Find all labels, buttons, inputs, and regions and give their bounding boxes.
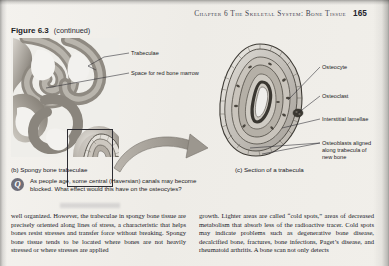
figure-number: Figure 6.3	[11, 26, 49, 35]
page-edge-left	[0, 0, 7, 266]
page-edge-top	[0, 0, 389, 5]
question-text: As people age, some central (Haversian) …	[30, 177, 197, 192]
label-osteoclast: Osteoclast	[322, 93, 348, 100]
body-column-left: well organized. However, the trabeculae …	[11, 212, 186, 255]
question-badge-icon: Q	[11, 178, 24, 191]
textbook-page: Chapter 6 The Skeletal System: Bone Tiss…	[0, 0, 389, 266]
page-edge-right	[373, 0, 389, 266]
label-trabeculae: Trabeculae	[131, 50, 159, 57]
label-osteoblasts: Osteoblasts aligned along trabecula of n…	[322, 140, 371, 160]
page-number: 165	[353, 9, 367, 18]
body-column-right: growth. Lighter areas are called “cold s…	[199, 212, 374, 255]
caption-panel-b: (b) Spongy bone trabeculae	[11, 166, 87, 173]
page-bleed-artifact	[60, 203, 120, 208]
figure-continued-note: (continued)	[54, 26, 91, 35]
label-marrow-space: Space for red bone marrow	[131, 70, 199, 77]
magnification-arrow-icon	[112, 128, 216, 180]
trabecula-section-illustration	[214, 40, 308, 162]
running-head: Chapter 6 The Skeletal System: Bone Tiss…	[194, 9, 367, 18]
label-interstitial-lamellae: Interstitial lamellae	[322, 116, 368, 123]
figure-title: Figure 6.3 (continued)	[11, 26, 90, 35]
body-text-columns: well organized. However, the trabeculae …	[11, 212, 375, 255]
caption-panel-c: (c) Section of a trabecula	[235, 166, 304, 173]
label-osteocyte: Osteocyte	[322, 64, 347, 71]
question-block: Q As people age, some central (Haversian…	[11, 177, 197, 192]
spongy-bone-trabeculae-illustration	[11, 38, 119, 157]
figure-illustration-area: Trabeculae Space for red bone marrow Ost…	[0, 36, 389, 164]
running-head-title: Chapter 6 The Skeletal System: Bone Tiss…	[194, 9, 346, 18]
